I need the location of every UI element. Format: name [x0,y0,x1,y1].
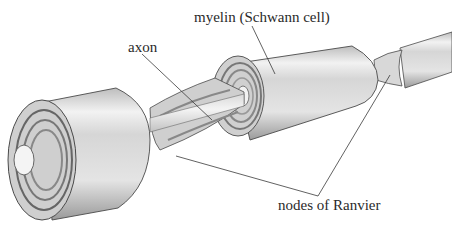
myelin-segment-right [374,32,452,88]
diagram-canvas: myelin (Schwann cell) axon nodes of Ranv… [0,0,452,242]
label-myelin: myelin (Schwann cell) [194,10,330,25]
label-axon: axon [128,40,157,55]
myelin-segment-left [8,88,150,220]
axon-illustration [0,0,452,242]
label-nodes-of-ranvier: nodes of Ranvier [278,198,380,213]
node-of-ranvier-left [150,78,244,150]
